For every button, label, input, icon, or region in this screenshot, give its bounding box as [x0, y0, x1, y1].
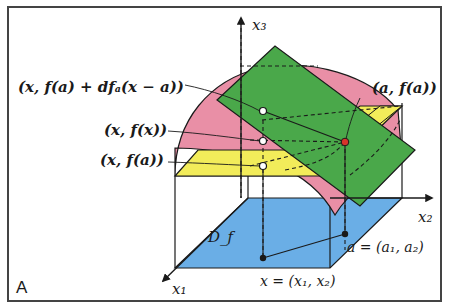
base-point-marker[interactable]	[341, 138, 349, 146]
x-point[interactable]	[260, 255, 266, 261]
x3-axis-label: x₃	[252, 16, 266, 34]
base-point-label: (a, f(a))	[372, 79, 437, 97]
domain-label: D_f	[207, 228, 236, 246]
a-coords-label: a = (a₁, a₂)	[347, 239, 424, 255]
graph-point-label: (x, f(x))	[104, 121, 167, 139]
x1-axis-label: x₁	[172, 280, 186, 298]
panel-label: A	[16, 278, 28, 297]
graph-point-marker[interactable]	[260, 138, 267, 145]
tangent-point-marker[interactable]	[260, 108, 267, 115]
x-coords-label: x = (x₁, x₂)	[260, 273, 335, 289]
x2-axis-label: x₂	[418, 208, 432, 226]
a-point[interactable]	[342, 231, 348, 237]
constant-point-marker[interactable]	[260, 163, 267, 170]
tangent-point-label: (x, f(a) + dfₐ(x − a))	[18, 78, 184, 96]
tangent-plane-diagram: (x, f(a) + dfₐ(x − a)) (x, f(x)) (x, f(a…	[0, 0, 449, 308]
constant-point-label: (x, f(a))	[100, 151, 164, 169]
